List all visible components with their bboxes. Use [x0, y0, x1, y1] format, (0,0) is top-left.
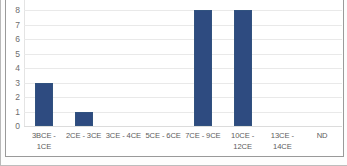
bar-slot	[223, 0, 263, 126]
y-axis-tick-label: 0	[15, 122, 20, 131]
x-axis-category-label: 7CE - 9CE	[183, 127, 223, 141]
x-axis-category-label: 10CE - 12CE	[223, 127, 263, 152]
bar-slot	[104, 0, 144, 126]
bar-slot	[183, 0, 223, 126]
y-axis-tick-label: 5	[15, 50, 20, 59]
x-axis-category-label: 5CE - 6CE	[143, 127, 183, 141]
bar[interactable]	[234, 10, 252, 126]
y-axis-tick-label: 3	[15, 78, 20, 87]
plot-area	[24, 0, 342, 126]
x-axis-category-label: ND	[302, 127, 342, 141]
bar-slot	[64, 0, 104, 126]
bar-slot	[24, 0, 64, 126]
y-axis: 0123456789	[6, 0, 24, 126]
bar[interactable]	[75, 112, 93, 126]
bar[interactable]	[35, 83, 53, 126]
x-axis-category-label: 3CE - 4CE	[104, 127, 144, 141]
y-axis-tick-label: 4	[15, 64, 20, 73]
y-axis-tick-label: 6	[15, 35, 20, 44]
bar[interactable]	[194, 10, 212, 126]
x-axis-category-label: 2CE - 3CE	[64, 127, 104, 141]
y-axis-tick-label: 8	[15, 6, 20, 15]
chart-container: 0123456789 3BCE - 1CE2CE - 3CE3CE - 4CE5…	[6, 0, 343, 156]
y-axis-tick-label: 7	[15, 21, 20, 30]
bar-slot	[302, 0, 342, 126]
y-axis-tick-label: 1	[15, 107, 20, 116]
bar-series	[24, 0, 342, 126]
x-axis: 3BCE - 1CE2CE - 3CE3CE - 4CE5CE - 6CE7CE…	[24, 127, 342, 152]
x-axis-category-label: 3BCE - 1CE	[24, 127, 64, 152]
x-axis-category-label: 13CE - 14CE	[263, 127, 303, 152]
y-axis-tick-label: 2	[15, 93, 20, 102]
bar-slot	[263, 0, 303, 126]
chart-frame: 0123456789 3BCE - 1CE2CE - 3CE3CE - 4CE5…	[0, 0, 347, 166]
bar-slot	[143, 0, 183, 126]
